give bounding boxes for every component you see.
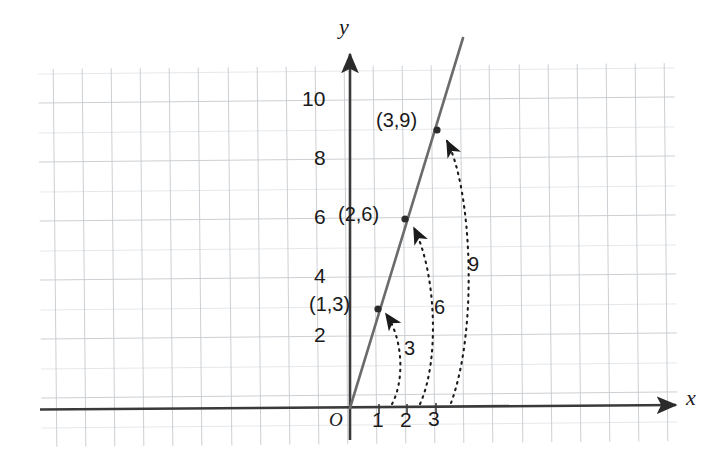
point-label-2-6: (2,6) bbox=[338, 203, 379, 226]
arc-arrow-3 bbox=[386, 314, 400, 404]
arc-label-3: 3 bbox=[404, 337, 415, 360]
y-tick-8: 8 bbox=[314, 146, 326, 170]
arc-arrow-6 bbox=[414, 228, 433, 404]
x-axis bbox=[40, 405, 676, 410]
point-label-3-9: (3,9) bbox=[376, 109, 417, 132]
x-tick-2: 2 bbox=[400, 408, 412, 432]
y-axis-label: y bbox=[339, 14, 349, 40]
y-tick-2: 2 bbox=[314, 323, 326, 347]
x-tick-3: 3 bbox=[428, 407, 440, 431]
y-tick-4: 4 bbox=[314, 264, 326, 288]
figure-canvas: y x O 10 8 6 4 2 1 2 3 (1,3) (2,6) (3,9)… bbox=[0, 0, 713, 467]
point-2-6-marker bbox=[401, 215, 408, 222]
x-tick-1: 1 bbox=[372, 408, 384, 432]
y-tick-6: 6 bbox=[314, 205, 326, 229]
arc-arrow-9 bbox=[447, 141, 469, 403]
y-tick-10: 10 bbox=[302, 87, 325, 111]
origin-label: O bbox=[329, 409, 343, 431]
point-3-9-marker bbox=[433, 126, 440, 133]
arc-label-9: 9 bbox=[468, 253, 479, 276]
plot-layer bbox=[0, 0, 713, 467]
point-label-1-3: (1,3) bbox=[309, 293, 350, 316]
arc-label-6: 6 bbox=[434, 296, 445, 319]
point-1-3-marker bbox=[374, 305, 381, 312]
x-axis-label: x bbox=[686, 385, 696, 411]
